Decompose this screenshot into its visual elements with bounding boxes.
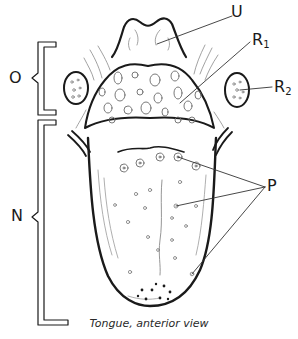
label-u: U	[231, 4, 243, 20]
label-n: N	[11, 208, 23, 224]
right-tonsil	[225, 73, 249, 107]
label-r2: R2	[274, 79, 292, 97]
fungiform-papillae	[114, 180, 198, 275]
label-r2-subscript: 2	[285, 86, 291, 97]
tongue-illustration	[0, 0, 298, 339]
label-r1: R1	[252, 32, 270, 50]
sulcus-terminalis	[118, 147, 184, 152]
vallate-papillae	[120, 153, 200, 172]
label-o-text: O	[9, 68, 22, 87]
label-r1-text: R	[252, 30, 263, 49]
label-p: P	[267, 178, 277, 194]
tip-papillae	[137, 283, 172, 301]
left-tonsil	[64, 72, 88, 104]
label-u-text: U	[231, 2, 243, 21]
bracket-o	[32, 42, 56, 115]
label-o: O	[9, 70, 22, 86]
side-pillars	[68, 128, 232, 156]
label-r2-text: R	[274, 77, 285, 96]
label-r1-subscript: 1	[263, 39, 269, 50]
median-sulcus	[159, 180, 162, 275]
bracket-n	[32, 120, 68, 325]
figure-caption: Tongue, anterior view	[0, 317, 298, 330]
label-p-text: P	[267, 176, 277, 195]
palatoglossal-folds	[76, 45, 224, 128]
lingual-tonsil-follicles	[99, 71, 201, 123]
label-n-text: N	[11, 206, 23, 225]
tongue-anterior-view-diagram: U R1 R2 P O N Tongue, anterior view	[0, 0, 298, 339]
uvula-texture	[129, 30, 170, 50]
